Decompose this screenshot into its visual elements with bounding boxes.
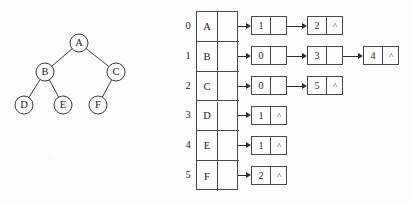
vertex-table-row[interactable]: F [197, 161, 239, 191]
list-node-value: 0 [252, 47, 270, 64]
arrow-shaft [287, 26, 303, 27]
tree-edge-group [29, 49, 112, 98]
list-node[interactable]: 2^ [307, 16, 343, 35]
tree-edge-c-f [102, 80, 111, 97]
list-node-null-marker: ^ [270, 137, 288, 154]
binary-tree-diagram: ABCDEF [0, 0, 180, 203]
list-node-value: 3 [308, 47, 326, 64]
list-node-null-marker: ^ [270, 107, 288, 124]
vertex-table: ABCDEF [196, 11, 238, 190]
list-node-null-marker: ^ [270, 167, 288, 184]
tree-edge-b-e [49, 80, 58, 97]
list-node-next-pointer [270, 17, 288, 34]
arrow-shaft [343, 56, 359, 57]
vertex-pointer-cell-divider [217, 72, 218, 101]
tree-node-group [15, 34, 125, 114]
vertex-table-row[interactable]: A [197, 12, 239, 42]
vertex-pointer-cell-divider [217, 131, 218, 160]
list-node-null-marker: ^ [326, 17, 344, 34]
list-node-null-marker: ^ [326, 77, 344, 94]
vertex-table-row[interactable]: E [197, 131, 239, 161]
tree-svg [0, 0, 180, 203]
list-node[interactable]: 4^ [363, 46, 399, 65]
list-node-value: 5 [308, 77, 326, 94]
tree-node-circle-d[interactable] [15, 96, 33, 114]
list-node-value: 0 [252, 77, 270, 94]
tree-edge-b-d [29, 80, 40, 98]
tree-node-circle-f[interactable] [89, 96, 107, 114]
list-node[interactable]: 1^ [251, 136, 287, 155]
adjacency-index-3: 3 [182, 109, 194, 120]
list-node[interactable]: 2^ [251, 166, 287, 185]
list-link-arrow-0-0 [287, 23, 307, 30]
vertex-label-a: A [197, 12, 217, 41]
vertex-label-c: C [197, 72, 217, 101]
list-node[interactable]: 1 [251, 16, 287, 35]
vertex-label-f: F [197, 161, 217, 191]
list-node-value: 1 [252, 17, 270, 34]
list-node[interactable]: 5^ [307, 76, 343, 95]
list-link-arrow-1-1 [343, 53, 363, 60]
list-node[interactable]: 0 [251, 76, 287, 95]
list-link-arrow-2-0 [287, 83, 307, 90]
vertex-label-e: E [197, 131, 217, 160]
list-node-value: 2 [308, 17, 326, 34]
list-node[interactable]: 3 [307, 46, 343, 65]
vertex-pointer-cell-divider [217, 102, 218, 131]
adjacency-head-arrow-1 [238, 53, 251, 60]
vertex-label-d: D [197, 102, 217, 131]
list-node-null-marker: ^ [382, 47, 400, 64]
vertex-pointer-cell-divider [217, 42, 218, 71]
adjacency-index-1: 1 [182, 50, 194, 61]
vertex-table-row[interactable]: C [197, 72, 239, 102]
adjacency-head-arrow-4 [238, 142, 251, 149]
list-node-next-pointer [326, 47, 344, 64]
tree-node-circle-c[interactable] [107, 63, 125, 81]
arrow-shaft [287, 86, 303, 87]
list-link-arrow-1-0 [287, 53, 307, 60]
list-node-value: 4 [364, 47, 382, 64]
vertex-table-row[interactable]: D [197, 102, 239, 132]
vertex-label-b: B [197, 42, 217, 71]
adjacency-head-arrow-2 [238, 83, 251, 90]
adjacency-head-arrow-0 [238, 23, 251, 30]
adjacency-index-0: 0 [182, 20, 194, 31]
list-node-next-pointer [270, 77, 288, 94]
tree-edge-a-b [52, 49, 72, 66]
adjacency-index-4: 4 [182, 139, 194, 150]
figure-canvas: ABCDEF 012345 ABCDEF 12^034^05^1^1^2^ [0, 0, 412, 203]
list-node-value: 1 [252, 107, 270, 124]
list-node-value: 2 [252, 167, 270, 184]
adjacency-head-arrow-3 [238, 112, 251, 119]
list-node-value: 1 [252, 137, 270, 154]
vertex-pointer-cell-divider [217, 161, 218, 191]
tree-node-circle-b[interactable] [36, 63, 54, 81]
list-node[interactable]: 1^ [251, 106, 287, 125]
adjacency-head-arrow-5 [238, 172, 251, 179]
tree-node-circle-a[interactable] [70, 34, 88, 52]
arrow-shaft [287, 56, 303, 57]
tree-edge-a-c [86, 49, 109, 67]
vertex-table-row[interactable]: B [197, 42, 239, 72]
adjacency-index-5: 5 [182, 169, 194, 180]
vertex-pointer-cell-divider [217, 12, 218, 41]
adjacency-index-2: 2 [182, 80, 194, 91]
list-node-next-pointer [270, 47, 288, 64]
tree-node-circle-e[interactable] [54, 96, 72, 114]
list-node[interactable]: 0 [251, 46, 287, 65]
